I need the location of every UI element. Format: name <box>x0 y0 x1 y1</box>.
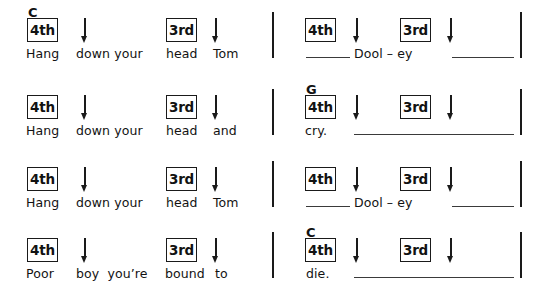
arrow-head <box>353 36 359 43</box>
lyric-syllable: die. <box>306 267 329 281</box>
measure-barline <box>272 161 274 207</box>
lyric-syllable: cry. <box>305 124 327 138</box>
sustain-line <box>354 277 514 278</box>
arrow-head <box>353 256 359 263</box>
sustain-line <box>306 206 350 207</box>
string-indicator-box: 4th <box>305 95 336 119</box>
string-indicator-box: 4th <box>305 238 336 262</box>
measure-barline <box>272 89 274 135</box>
notation-row: 4th3rdHangdown yourheadTom4th3rdDool – e… <box>0 155 554 227</box>
lyric-syllable: Dool – ey <box>354 47 413 61</box>
measure-right: G4th3rdcry. <box>0 83 554 155</box>
measure-barline <box>520 12 522 58</box>
downstroke-arrow-icon <box>446 95 455 121</box>
arrow-head <box>353 113 359 120</box>
arrow-shaft <box>450 95 452 115</box>
downstroke-arrow-icon <box>446 18 455 44</box>
notation-row: 4th3rdPoorboy you’reboundtoC4th3rddie. <box>0 226 554 296</box>
arrow-shaft <box>356 18 358 38</box>
downstroke-arrow-icon <box>352 238 361 264</box>
arrow-head <box>447 185 453 192</box>
arrow-shaft <box>450 167 452 187</box>
strum-pattern-sheet: C4th3rdHangdown yourheadTom4th3rdDool – … <box>0 0 554 296</box>
downstroke-arrow-icon <box>446 238 455 264</box>
arrow-shaft <box>450 18 452 38</box>
sustain-line <box>306 57 350 58</box>
arrow-shaft <box>356 167 358 187</box>
downstroke-arrow-icon <box>352 18 361 44</box>
notation-row: 4th3rdHangdown yourheadandG4th3rdcry. <box>0 83 554 155</box>
measure-barline <box>520 232 522 278</box>
downstroke-arrow-icon <box>446 167 455 193</box>
arrow-head <box>447 36 453 43</box>
string-indicator-box: 3rd <box>400 167 431 191</box>
downstroke-arrow-icon <box>352 95 361 121</box>
measure-barline <box>520 89 522 135</box>
sustain-line <box>452 206 514 207</box>
lyric-syllable: Dool – ey <box>354 196 413 210</box>
arrow-head <box>447 113 453 120</box>
string-indicator-box: 4th <box>305 18 336 42</box>
arrow-shaft <box>356 95 358 115</box>
notation-row: C4th3rdHangdown yourheadTom4th3rdDool – … <box>0 6 554 78</box>
downstroke-arrow-icon <box>352 167 361 193</box>
measure-barline <box>272 232 274 278</box>
arrow-shaft <box>356 238 358 258</box>
string-indicator-box: 3rd <box>400 18 431 42</box>
string-indicator-box: 4th <box>305 167 336 191</box>
arrow-head <box>447 256 453 263</box>
measure-right: C4th3rddie. <box>0 226 554 296</box>
sustain-line <box>452 57 514 58</box>
measure-barline <box>520 161 522 207</box>
arrow-shaft <box>450 238 452 258</box>
string-indicator-box: 3rd <box>400 95 431 119</box>
measure-barline <box>272 12 274 58</box>
sustain-line <box>354 134 514 135</box>
arrow-head <box>353 185 359 192</box>
measure-right: 4th3rdDool – ey <box>0 155 554 227</box>
measure-right: 4th3rdDool – ey <box>0 6 554 78</box>
string-indicator-box: 3rd <box>400 238 431 262</box>
